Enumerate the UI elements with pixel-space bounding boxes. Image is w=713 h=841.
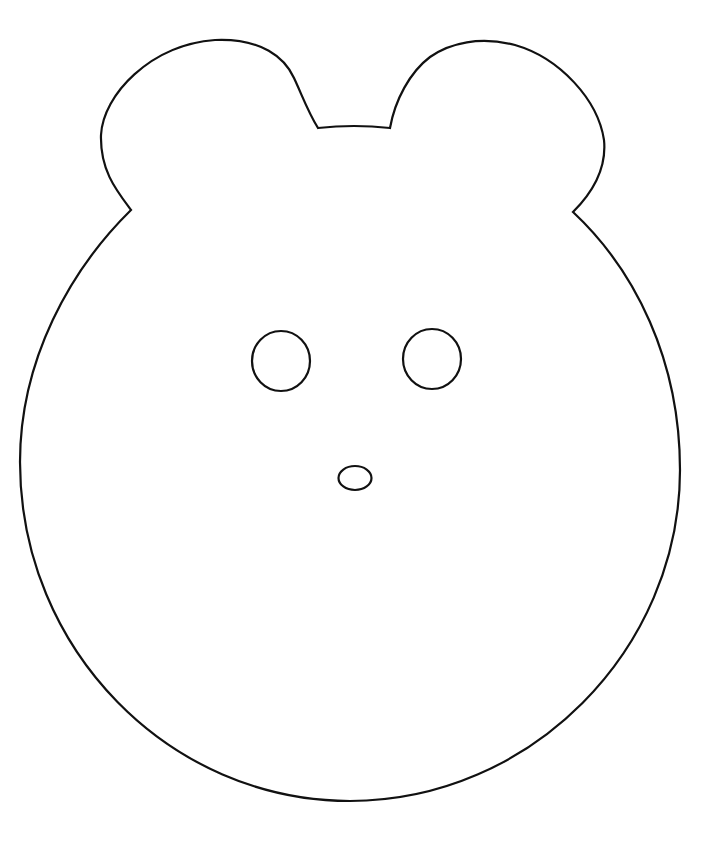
bear-face-drawing [0, 0, 713, 841]
head-outline [20, 40, 680, 801]
left-eye [252, 331, 310, 391]
nose [339, 466, 372, 490]
right-eye [403, 329, 461, 389]
